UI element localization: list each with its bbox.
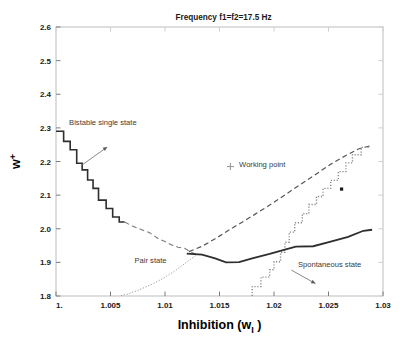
marker-square-data-point: [340, 187, 343, 190]
working-point-label: Working point: [239, 160, 286, 169]
y-tick-label: 2.6: [40, 23, 52, 32]
y-axis-label-superscript: +: [8, 154, 18, 159]
y-tick-label: 2.5: [40, 57, 52, 66]
y-tick-label: 2.0: [40, 225, 52, 234]
y-axis-label-main: w: [9, 159, 23, 170]
x-tick-label: 1.01: [157, 301, 173, 310]
chart-canvas: 1.1.0051.011.0151.021.0251.031.81.92.02.…: [0, 0, 405, 343]
y-tick-label: 1.8: [40, 292, 52, 301]
y-tick-label: 1.9: [40, 258, 52, 267]
y-tick-label: 2.3: [40, 124, 52, 133]
x-axis-label-main: Inhibition (w: [178, 318, 252, 332]
x-tick-label: 1.03: [375, 301, 391, 310]
y-tick-label: 2.2: [40, 158, 52, 167]
y-tick-label: 2.4: [40, 90, 52, 99]
y-tick-label: 2.1: [40, 191, 52, 200]
chart-title: Frequency f1=f2=17.5 Hz: [175, 13, 271, 22]
figure-container: 1.1.0051.011.0151.021.0251.031.81.92.02.…: [0, 0, 405, 343]
pair-state-label: Pair state: [134, 256, 166, 265]
plot-background: [0, 0, 405, 343]
x-tick-label: 1.015: [209, 301, 230, 310]
x-tick-label: 1.02: [266, 301, 282, 310]
bistable-single-state-label: Bistable single state: [69, 118, 137, 127]
x-tick-label: 1.: [56, 301, 63, 310]
spontaneous-state-label: Spontaneous state: [298, 260, 361, 269]
x-tick-label: 1.025: [318, 301, 339, 310]
x-axis-label-close: ): [254, 318, 262, 332]
x-tick-label: 1.005: [100, 301, 121, 310]
